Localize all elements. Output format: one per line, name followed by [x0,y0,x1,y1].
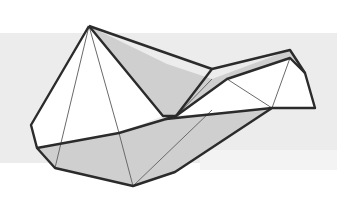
figure-canvas [0,0,337,204]
polyhedron-drawing [0,0,337,204]
background-band-fade [200,150,337,170]
